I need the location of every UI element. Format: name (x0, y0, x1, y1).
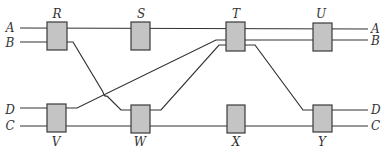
switch-box-x (227, 105, 245, 133)
box-label-v: V (52, 135, 62, 149)
switch-box-u (313, 23, 332, 51)
line-label-left-a: A (5, 21, 15, 35)
box-label-t: T (232, 7, 241, 21)
switch-box-y (313, 105, 332, 132)
wire-line-b-to-w-to-t-to-y (20, 42, 368, 110)
line-label-right-c: C (371, 119, 380, 133)
line-label-right-d: D (370, 103, 381, 117)
switch-box-r (47, 22, 67, 50)
line-label-left-d: D (4, 103, 15, 117)
switch-box-t (226, 22, 245, 51)
box-label-w: W (134, 135, 148, 149)
box-label-r: R (51, 7, 61, 21)
switch-box-v (47, 104, 66, 132)
box-label-x: X (231, 135, 241, 149)
box-label-s: S (137, 7, 145, 21)
box-label-y: Y (318, 135, 327, 149)
switch-box-s (131, 22, 150, 50)
line-label-right-b: B (370, 34, 380, 48)
box-label-u: U (316, 7, 327, 21)
line-label-left-b: B (5, 36, 15, 50)
track-diagram: RSTU VWXY ABDCABDC (0, 0, 387, 153)
switch-box-w (131, 105, 150, 133)
line-label-left-c: C (5, 119, 14, 133)
